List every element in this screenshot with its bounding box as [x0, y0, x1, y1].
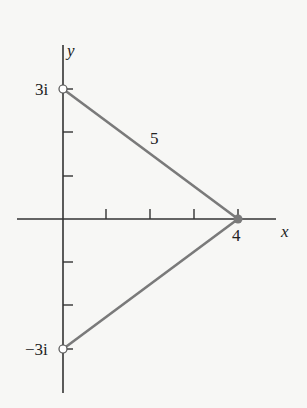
- segment-top-right: [63, 89, 238, 219]
- label-3i: 3i: [35, 80, 49, 99]
- x-ticks: [106, 209, 238, 219]
- segment-bottom-right: [63, 219, 238, 349]
- y-axis-label: y: [65, 41, 75, 60]
- point-4-filled-circle: [234, 215, 243, 224]
- point-3i-open-circle: [59, 85, 67, 93]
- segment-length-label: 5: [150, 129, 159, 148]
- complex-plane-diagram: y x 3i −3i 4 5: [0, 0, 307, 408]
- point-neg3i-open-circle: [59, 345, 67, 353]
- label-4: 4: [232, 226, 241, 245]
- x-axis-label: x: [280, 222, 289, 241]
- label-neg3i: −3i: [25, 340, 48, 359]
